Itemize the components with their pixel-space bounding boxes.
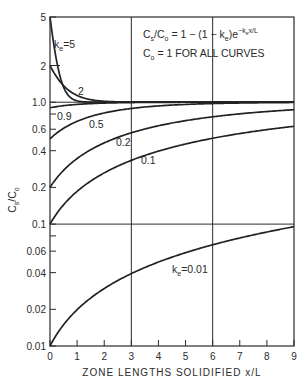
x-tick-label: 0	[47, 351, 53, 362]
y-axis-ticks: 521.00.60.40.20.10.060.040.020.01	[27, 12, 56, 352]
x-tick-label: 5	[183, 351, 189, 362]
curve-ke=0.2	[50, 110, 294, 188]
y-tick-label: 0.6	[32, 124, 46, 135]
curve-label: 2	[78, 85, 84, 97]
plot-frame	[50, 17, 294, 346]
x-axis-label: ZONE LENGTHS SOLIDIFIED x/L	[82, 367, 261, 378]
curve-label: ke=5	[54, 38, 75, 52]
curve-ke=0.01	[50, 227, 294, 346]
x-tick-label: 7	[237, 351, 243, 362]
curve-ke=2	[50, 66, 294, 103]
y-tick-label: 5	[40, 12, 46, 23]
x-tick-label: 8	[264, 351, 270, 362]
x-tick-label: 1	[74, 351, 80, 362]
y-tick-label: 0.4	[32, 146, 46, 157]
y-tick-label: 2	[40, 61, 46, 72]
x-tick-label: 2	[101, 351, 107, 362]
curve-ke=0.1	[50, 126, 294, 224]
curve-ke=0.5	[50, 103, 294, 139]
x-tick-label: 3	[129, 351, 135, 362]
y-tick-label: 0.04	[27, 268, 47, 279]
y-tick-label: 0.2	[32, 182, 46, 193]
data-curves	[50, 17, 294, 346]
segregation-chart: 521.00.60.40.20.10.060.040.020.01 012345…	[0, 0, 308, 388]
curve-label: 0.5	[89, 118, 104, 130]
curve-label: 0.2	[116, 136, 131, 148]
y-tick-label: 0.1	[32, 219, 46, 230]
x-tick-label: 9	[291, 351, 297, 362]
curve-label: 0.1	[141, 154, 156, 166]
y-tick-label: 0.02	[27, 304, 47, 315]
y-axis-label: Cs/Co	[6, 187, 20, 213]
gridlines	[50, 17, 294, 346]
x-axis-ticks: 0123456789	[47, 340, 297, 362]
y-tick-label: 1.0	[32, 97, 46, 108]
equation: Cs/Co = 1 − (1 − ke)e−kex/L	[143, 27, 258, 42]
y-tick-label: 0.06	[27, 246, 47, 257]
curve-label: 0.9	[57, 110, 72, 122]
y-tick-label: 0.01	[27, 341, 47, 352]
x-tick-label: 6	[210, 351, 216, 362]
note-text: Co = 1 FOR ALL CURVES	[143, 47, 265, 61]
curve-labels: ke=520.90.50.20.1ke=0.01	[50, 38, 208, 277]
curve-label: ke=0.01	[172, 263, 208, 277]
x-tick-label: 4	[156, 351, 162, 362]
